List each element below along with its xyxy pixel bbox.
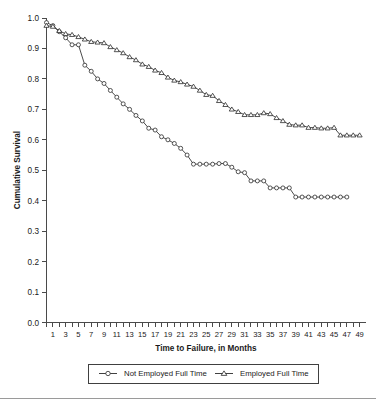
y-tick-label: 0.1 <box>28 288 40 297</box>
circle-marker <box>115 95 119 99</box>
circle-marker <box>128 107 132 111</box>
circle-marker <box>83 63 87 67</box>
circle-marker <box>166 138 170 142</box>
circle-marker <box>198 162 202 166</box>
x-tick-label: 43 <box>317 330 325 339</box>
legend-label: Not Employed Full Time <box>124 369 207 378</box>
triangle-marker <box>197 88 202 92</box>
x-tick-group <box>47 323 360 328</box>
circle-marker <box>121 102 125 106</box>
circle-marker <box>294 195 298 199</box>
x-tick-label: 41 <box>304 330 312 339</box>
circle-marker <box>287 186 291 190</box>
circle-marker <box>281 186 285 190</box>
x-tick-label: 23 <box>189 330 197 339</box>
y-tick-label: 1.0 <box>28 14 40 23</box>
x-tick-label: 45 <box>330 330 338 339</box>
circle-marker <box>153 128 157 132</box>
x-tick-label: 39 <box>291 330 299 339</box>
y-tick-label: 0.5 <box>28 166 40 175</box>
x-tick-label: 35 <box>266 330 274 339</box>
triangle-marker <box>140 62 145 66</box>
circle-marker <box>319 195 323 199</box>
y-tick-label: 0.9 <box>28 44 40 53</box>
triangle-marker <box>121 51 126 55</box>
circle-marker <box>262 179 266 183</box>
y-tick-label: 0.0 <box>28 319 40 328</box>
legend-label: Employed Full Time <box>240 369 308 378</box>
circle-marker <box>108 88 112 92</box>
circle-marker <box>306 195 310 199</box>
triangle-marker <box>63 31 68 35</box>
circle-marker <box>140 119 144 123</box>
y-tick-label: 0.2 <box>28 258 40 267</box>
circle-marker <box>236 170 240 174</box>
series-2 <box>44 23 362 137</box>
x-axis-title: Time to Failure, in Months <box>155 344 257 353</box>
circle-marker <box>345 195 349 199</box>
x-tick-label-group: 1357911131517192123252729313335373941434… <box>51 330 364 339</box>
y-axis-title: Cumulative Survival <box>13 131 22 209</box>
triangle-marker <box>331 125 336 129</box>
circle-marker <box>70 43 74 47</box>
circle-marker <box>275 186 279 190</box>
triangle-marker <box>261 111 266 115</box>
x-tick-label: 9 <box>102 330 106 339</box>
y-axis-group: 0.00.10.20.30.40.50.60.70.80.91.0 <box>28 14 47 328</box>
x-tick-label: 47 <box>343 330 351 339</box>
circle-marker <box>300 195 304 199</box>
circle-marker <box>147 126 151 130</box>
x-tick-label: 21 <box>176 330 184 339</box>
y-tick-group: 0.00.10.20.30.40.50.60.70.80.91.0 <box>28 14 47 328</box>
triangle-marker <box>274 116 279 120</box>
x-axis-group: 1357911131517192123252729313335373941434… <box>47 323 367 340</box>
x-tick-label: 49 <box>355 330 363 339</box>
triangle-marker <box>127 55 132 59</box>
legend-items: Not Employed Full TimeEmployed Full Time <box>99 369 308 378</box>
circle-marker <box>191 162 195 166</box>
circle-marker <box>64 36 68 40</box>
circle-marker <box>230 165 234 169</box>
x-tick-label: 31 <box>240 330 248 339</box>
circle-marker <box>313 195 317 199</box>
triangle-marker <box>172 78 177 82</box>
circle-marker <box>96 77 100 81</box>
series-1 <box>45 21 349 199</box>
circle-marker <box>249 179 253 183</box>
y-tick-label: 0.7 <box>28 105 40 114</box>
circle-marker <box>217 162 221 166</box>
x-tick-label: 19 <box>164 330 172 339</box>
circle-marker <box>268 186 272 190</box>
x-tick-label: 17 <box>151 330 159 339</box>
circle-marker <box>255 179 259 183</box>
x-tick-label: 11 <box>113 330 121 339</box>
triangle-marker <box>153 68 158 72</box>
circle-marker <box>326 195 330 199</box>
circle-marker <box>223 162 227 166</box>
triangle-marker <box>287 122 292 126</box>
x-tick-label: 25 <box>202 330 210 339</box>
triangle-marker <box>114 48 119 52</box>
circle-marker <box>179 146 183 150</box>
x-tick-label: 37 <box>279 330 287 339</box>
triangle-marker <box>204 92 209 96</box>
x-tick-label: 3 <box>64 330 68 339</box>
circle-marker <box>172 141 176 145</box>
triangle-marker <box>108 45 113 49</box>
circle-marker <box>243 171 247 175</box>
y-tick-label: 0.3 <box>28 227 40 236</box>
y-tick-label: 0.4 <box>28 197 40 206</box>
y-tick-label: 0.6 <box>28 136 40 145</box>
x-tick-label: 13 <box>125 330 133 339</box>
legend: Not Employed Full TimeEmployed Full Time <box>88 364 318 383</box>
y-tick-label: 0.8 <box>28 75 40 84</box>
circle-marker <box>102 81 106 85</box>
circle-marker <box>338 195 342 199</box>
circle-marker <box>76 43 80 47</box>
triangle-marker <box>280 119 285 123</box>
x-tick-label: 15 <box>138 330 146 339</box>
circle-marker <box>332 195 336 199</box>
survival-chart: 0.00.10.20.30.40.50.60.70.80.91.0 135791… <box>0 0 376 405</box>
triangle-marker <box>223 102 228 106</box>
circle-marker <box>89 69 93 73</box>
